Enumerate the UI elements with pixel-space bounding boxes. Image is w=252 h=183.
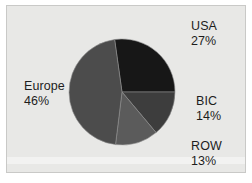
slice-label-row: ROW 13% bbox=[191, 139, 222, 168]
slice-label-bic-name: BIC bbox=[196, 94, 221, 109]
pie-slice-usa bbox=[115, 39, 175, 92]
pie-slice-group bbox=[69, 39, 175, 145]
slice-label-usa-value: 27% bbox=[191, 34, 217, 49]
slice-label-europe: Europe 46% bbox=[24, 79, 65, 108]
slice-label-row-name: ROW bbox=[191, 139, 222, 154]
slice-label-usa-name: USA bbox=[191, 19, 217, 34]
slice-label-europe-name: Europe bbox=[24, 79, 65, 94]
slice-label-row-value: 13% bbox=[191, 154, 222, 169]
slice-label-usa: USA 27% bbox=[191, 19, 217, 48]
slice-label-bic: BIC 14% bbox=[196, 94, 221, 123]
slice-label-europe-value: 46% bbox=[24, 94, 65, 109]
pie-chart-figure: USA 27% BIC 14% ROW 13% Europe 46% bbox=[0, 0, 252, 183]
slice-label-bic-value: 14% bbox=[196, 109, 221, 124]
pie-slice-europe bbox=[69, 40, 122, 145]
